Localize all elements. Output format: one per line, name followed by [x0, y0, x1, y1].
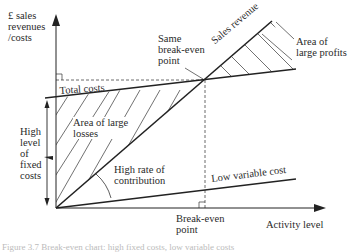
high-fixed-costs-label: High level of fixed costs — [20, 126, 42, 181]
profits-pointer — [276, 22, 294, 39]
contribution-line-1: High rate of — [114, 164, 165, 175]
bep-line-1: Break-even — [176, 213, 224, 224]
fixed-costs-arrow-up — [45, 100, 50, 108]
profits-line-1: Area of — [296, 36, 347, 47]
high-rate-contribution-label: High rate of contribution — [114, 164, 165, 186]
fixed-line-5: costs — [20, 170, 42, 181]
figure-caption: Figure 3.7 Break-even chart: high fixed … — [2, 242, 234, 252]
fixed-line-4: fixed — [20, 159, 42, 170]
area-large-losses-label: Area of large losses — [73, 117, 128, 139]
profits-line-2: large profits — [296, 47, 347, 58]
y-label-line-1: £ sales — [8, 10, 45, 21]
fixed-line-1: High — [20, 126, 42, 137]
losses-line-2: losses — [73, 128, 128, 139]
profits-pointer-2 — [262, 34, 292, 60]
same-bep-line-1: Same — [158, 33, 205, 44]
same-bep-line-2: break-even — [158, 44, 205, 55]
low-variable-cost-line — [56, 179, 296, 208]
fixed-costs-mid-marker — [44, 156, 53, 160]
right-angle-y — [56, 74, 62, 80]
break-even-point-label: Break-even point — [176, 213, 224, 235]
y-label-line-3: /costs — [8, 32, 45, 43]
fixed-costs-arrow-down — [45, 198, 50, 206]
fixed-line-3: of — [20, 148, 42, 159]
same-bep-pointer — [185, 68, 203, 79]
bep-line-2: point — [176, 224, 224, 235]
losses-line-1: Area of large — [73, 117, 128, 128]
contribution-line-2: contribution — [114, 175, 165, 186]
area-large-profits-label: Area of large profits — [296, 36, 347, 58]
fixed-line-2: level — [20, 137, 42, 148]
same-break-even-label: Same break-even point — [158, 33, 205, 66]
y-axis-arrow — [52, 14, 60, 26]
contribution-angle-arc — [96, 174, 111, 198]
x-axis-label: Activity level — [266, 219, 323, 230]
y-label-line-2: revenues — [8, 21, 45, 32]
y-axis-label: £ sales revenues /costs — [8, 10, 45, 43]
x-axis-arrow — [314, 204, 326, 212]
same-bep-line-3: point — [158, 55, 205, 66]
right-angle-x — [199, 202, 205, 208]
